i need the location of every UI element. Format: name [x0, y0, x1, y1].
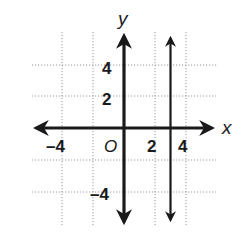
x-tick-label-4: 4: [178, 137, 188, 156]
coordinate-plane: y x O –4 2 4 4 2 –4: [0, 0, 240, 243]
y-tick-label-neg4: –4: [90, 185, 109, 204]
y-axis-label: y: [116, 8, 129, 29]
x-tick-label-2: 2: [147, 137, 156, 156]
x-axis-label: x: [221, 117, 233, 138]
y-tick-label-2: 2: [102, 90, 111, 109]
y-tick-label-4: 4: [102, 59, 112, 78]
x-tick-label-neg4: –4: [46, 137, 65, 156]
origin-label: O: [104, 137, 117, 156]
